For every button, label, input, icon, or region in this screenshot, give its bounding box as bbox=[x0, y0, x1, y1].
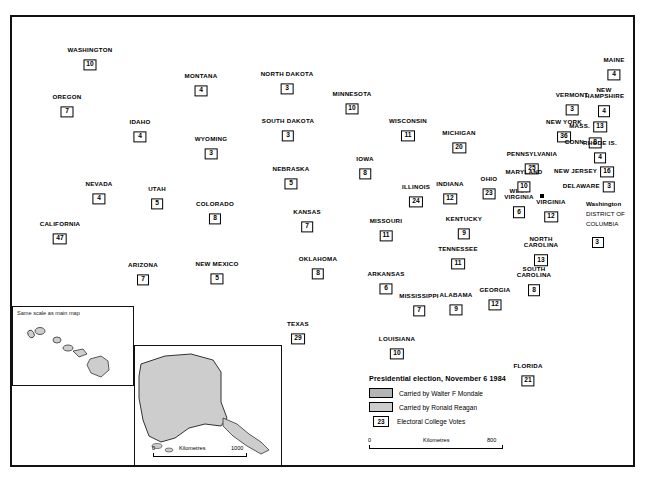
legend-label-votes: Electoral College Votes bbox=[397, 418, 465, 425]
legend-row-votes: 23 Electoral College Votes bbox=[369, 416, 569, 426]
map-legend: Presidential election, November 6 1984 C… bbox=[369, 374, 569, 430]
ak-scale-max: 1000 bbox=[231, 445, 243, 451]
legend-swatch-reagan bbox=[369, 402, 393, 412]
main-scale-label: Kilometres bbox=[423, 437, 449, 443]
main-scale-min: 0 bbox=[368, 437, 371, 443]
alaska-shape bbox=[135, 346, 283, 467]
legend-label-reagan: Carried by Ronald Reagan bbox=[399, 404, 477, 411]
legend-votes-box: 23 bbox=[373, 416, 389, 427]
hawaii-islands-shapes bbox=[13, 307, 135, 387]
alaska-inset: 0 Kilometres 1000 bbox=[134, 345, 282, 466]
ak-scale-min: 0 bbox=[152, 445, 155, 451]
legend-row-reagan: Carried by Ronald Reagan bbox=[369, 402, 569, 412]
dc-marker-dot bbox=[540, 194, 544, 198]
legend-swatch-mondale bbox=[369, 388, 393, 398]
legend-label-mondale: Carried by Walter F Mondale bbox=[399, 390, 483, 397]
dc-line1: DISTRICT OF bbox=[586, 210, 625, 217]
dc-line2: COLUMBIA bbox=[586, 220, 618, 227]
dc-votes: 3 bbox=[592, 230, 604, 248]
legend-title: Presidential election, November 6 1984 bbox=[369, 374, 569, 383]
dc-votes-box: 3 bbox=[592, 237, 604, 248]
hawaii-inset: Same scale as main map bbox=[12, 306, 134, 386]
ak-scale-label: Kilometres bbox=[179, 445, 205, 451]
legend-row-mondale: Carried by Walter F Mondale bbox=[369, 388, 569, 398]
main-scale-max: 800 bbox=[487, 437, 496, 443]
election-map: Washington DISTRICT OF COLUMBIA 3 WASHIN… bbox=[0, 0, 649, 489]
dc-marker-label: Washington bbox=[586, 200, 621, 207]
